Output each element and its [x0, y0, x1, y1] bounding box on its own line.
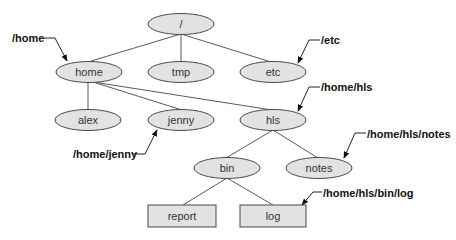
callout-label: /home: [12, 32, 44, 44]
edge-bin-report: [183, 178, 227, 205]
node-jenny: jenny: [148, 110, 214, 131]
node-tmp: tmp: [148, 62, 214, 83]
node-etc: etc: [240, 62, 306, 83]
callout-arrow-icon: [302, 192, 322, 205]
callout-label: /home/hls/notes: [367, 128, 451, 140]
node-label: hls: [266, 114, 281, 126]
node-notes: notes: [286, 158, 352, 179]
callout-etc: /etc: [298, 34, 340, 63]
node-label: alex: [78, 114, 99, 126]
callout-hls: /home/hls: [298, 81, 372, 111]
node-hls: hls: [240, 110, 306, 131]
edge-home-hls: [93, 82, 272, 110]
node-label: bin: [220, 162, 235, 174]
node-home: home: [56, 62, 122, 83]
node-log: log: [240, 205, 306, 227]
edge-bin-log: [227, 178, 273, 205]
callout-log: /home/hls/bin/log: [302, 187, 413, 205]
node-label: log: [266, 210, 281, 222]
node-bin: bin: [194, 158, 260, 179]
callout-label: /home/hls/bin/log: [323, 187, 413, 199]
edge-root-etc: [181, 34, 271, 62]
directory-tree-diagram: / home tmp etc alex jenny hls bin notes …: [0, 0, 456, 240]
edge-hls-bin: [226, 130, 273, 158]
node-alex: alex: [55, 110, 121, 131]
edge-hls-notes: [273, 130, 318, 158]
edge-root-home: [91, 34, 181, 61]
node-report: report: [148, 205, 216, 227]
callout-jenny: /home/jenny: [73, 130, 157, 160]
node-label: notes: [306, 162, 333, 174]
node-label: tmp: [172, 66, 190, 78]
callout-label: /etc: [321, 34, 340, 46]
callout-notes: /home/hls/notes: [344, 128, 451, 158]
callout-home: /home: [12, 32, 67, 61]
edge-home-jenny: [93, 82, 182, 110]
node-label: report: [168, 210, 197, 222]
node-root: /: [148, 14, 214, 35]
callout-arrow-icon: [298, 40, 320, 63]
node-label: etc: [266, 66, 281, 78]
node-label: jenny: [167, 114, 195, 126]
callout-arrow-icon: [344, 133, 366, 158]
callout-arrow-icon: [298, 87, 320, 111]
callout-label: /home/jenny: [73, 148, 138, 160]
node-label: home: [75, 66, 103, 78]
callout-label: /home/hls: [321, 81, 372, 93]
callout-arrow-icon: [44, 38, 67, 61]
